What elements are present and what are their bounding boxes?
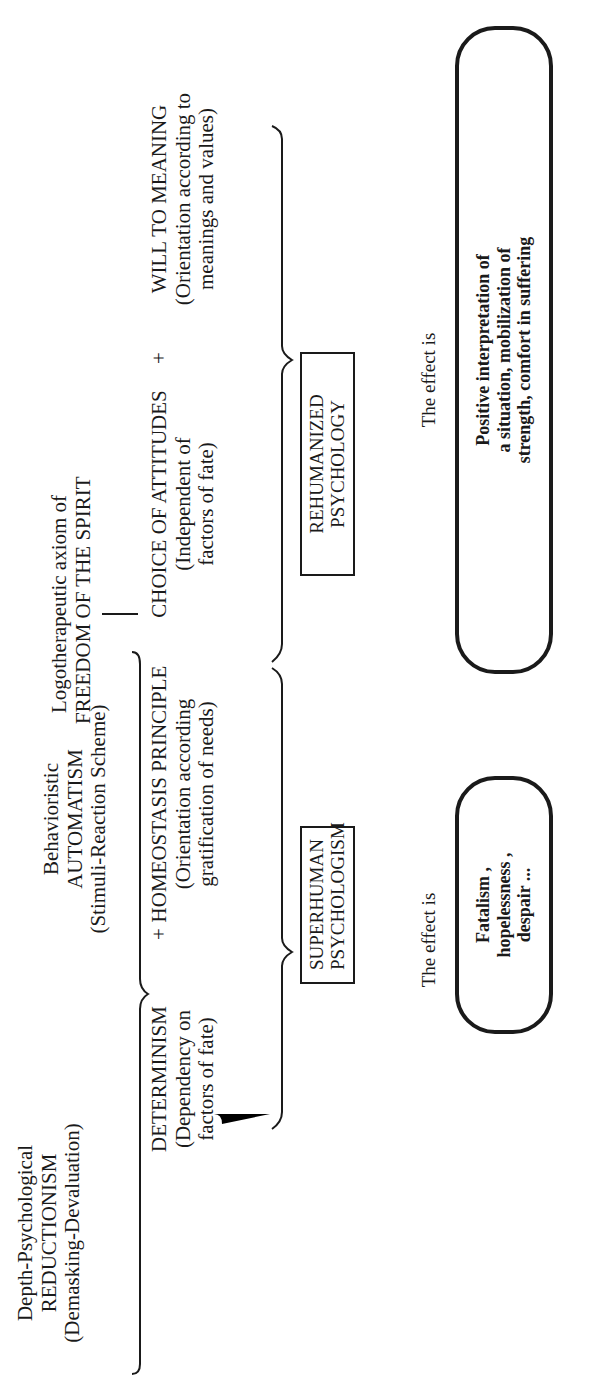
result-superhuman-psychologism: SUPERHUMAN PSYCHOLOGISM bbox=[300, 826, 355, 984]
effect-label-right: The effect is bbox=[418, 320, 439, 440]
plus-sign-right: + bbox=[148, 348, 172, 368]
source-reductionism: Depth-Psychological REDUCTIONISM (Demask… bbox=[14, 1118, 85, 1348]
brace-left-top bbox=[132, 652, 148, 1374]
brace-determinism bbox=[214, 1114, 270, 1124]
effect-oval-right: Positive interpretation of a situation, … bbox=[455, 26, 553, 674]
source-automatism: Behavioristic AUTOMATISM (Stimuli-Reacti… bbox=[40, 694, 111, 944]
concept-determinism: DETERMINISM (Dependency on factors of fa… bbox=[148, 964, 219, 1194]
concept-will-to-meaning: WILL TO MEANING (Orientation according t… bbox=[148, 64, 219, 334]
concept-homeostasis: HOMEOSTASIS PRINCIPLE (Orientation accor… bbox=[148, 654, 219, 934]
brace-rehumanized bbox=[272, 126, 292, 662]
result-rehumanized-psychology: REHUMANIZED PSYCHOLOGY bbox=[300, 352, 355, 576]
brace-superhuman bbox=[272, 668, 292, 1129]
effect-oval-left: Fatalism , hopelessness , despair ... bbox=[455, 776, 553, 1034]
effect-label-left: The effect is bbox=[418, 880, 439, 1000]
source-freedom: Logotherapeutic axiom of FREEDOM OF THE … bbox=[48, 484, 95, 724]
concept-choice: CHOICE OF ATTITUDES (Independent of fact… bbox=[148, 384, 219, 624]
logotherapy-diagram: Depth-Psychological REDUCTIONISM (Demask… bbox=[0, 0, 592, 1384]
